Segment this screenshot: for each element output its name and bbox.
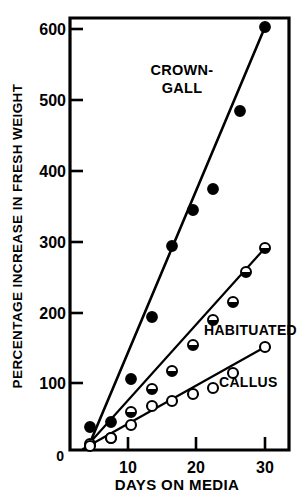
x-axis-title: DAYS ON MEDIA [115,476,240,493]
crown-gall-label-line2: GALL [162,80,203,96]
data-point [260,342,270,352]
habituated-trend-line [86,248,265,447]
x-tick-labels: 10 20 30 [119,459,274,476]
x-axis-ticks [128,437,265,450]
data-point [167,366,177,376]
y-tick-label-0: 0 [56,448,64,464]
data-point [85,441,95,451]
x-tick-label-10: 10 [119,459,137,476]
habituated-label: HABITUATED [204,322,297,338]
y-tick-label-400: 400 [39,163,66,180]
data-point [260,22,270,32]
data-point [147,312,157,322]
y-tick-label-300: 300 [39,234,66,251]
data-point [241,267,251,277]
data-point [228,297,238,307]
y-tick-label-200: 200 [39,305,66,322]
data-point [208,383,218,393]
series-annotations: CROWN- GALL HABITUATED CALLUS [150,62,296,390]
x-tick-label-30: 30 [256,459,274,476]
y-tick-label-600: 600 [39,21,66,38]
data-point [167,396,177,406]
chart-figure: 600 500 400 300 200 100 0 10 20 30 DAYS … [0,0,305,494]
data-point [260,243,270,253]
data-point [147,401,157,411]
y-tick-label-500: 500 [39,92,66,109]
data-point [85,422,95,432]
data-point [208,184,218,194]
data-point [126,420,136,430]
series-callus [83,342,270,451]
y-axis-title: PERCENTAGE INCREASE IN FRESH WEIGHT [10,83,25,388]
data-point [188,205,198,215]
data-point [147,384,157,394]
data-point [106,433,116,443]
y-tick-label-100: 100 [39,375,66,392]
growth-line-chart: 600 500 400 300 200 100 0 10 20 30 DAYS … [0,0,305,494]
y-axis-ticks [70,29,83,383]
data-point [167,241,177,251]
data-point [188,340,198,350]
data-point [126,407,136,417]
data-point [188,389,198,399]
y-tick-labels: 600 500 400 300 200 100 0 [39,21,66,464]
callus-label: CALLUS [219,374,278,390]
data-point [126,374,136,384]
crown-gall-label-line1: CROWN- [150,62,213,78]
series-habituated [85,243,270,449]
x-tick-label-20: 20 [187,459,205,476]
data-point [235,106,245,116]
